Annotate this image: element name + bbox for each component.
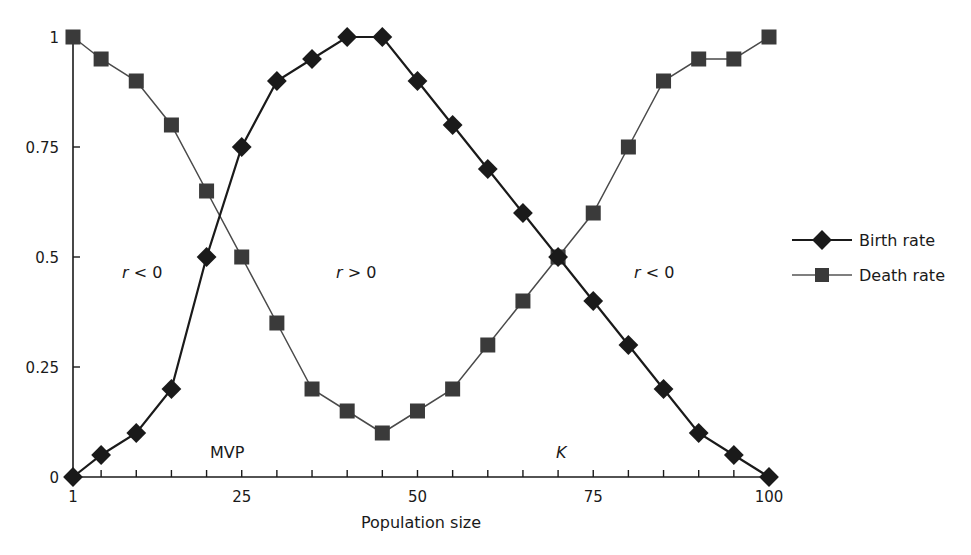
square-marker-icon [691, 52, 706, 67]
square-marker-icon [726, 52, 741, 67]
square-marker-icon [445, 382, 460, 397]
x-tick-label: 75 [584, 488, 603, 506]
k-label: K [556, 443, 568, 462]
square-marker-icon [129, 74, 144, 89]
square-marker-icon [199, 184, 214, 199]
series-death-rate [66, 30, 777, 441]
y-tick-label: 0 [49, 469, 59, 487]
diamond-marker-icon [759, 467, 779, 487]
square-marker-icon [515, 294, 530, 309]
diamond-marker-icon [197, 247, 217, 267]
diamond-marker-icon [232, 137, 252, 157]
y-tick-label: 0.25 [26, 359, 59, 377]
square-marker-icon [375, 426, 390, 441]
square-marker-icon [94, 52, 109, 67]
x-tick-label: 25 [232, 488, 251, 506]
legend-item-death-rate: Death rate [792, 266, 945, 285]
legend-label-birth-rate: Birth rate [859, 231, 935, 250]
square-marker-icon [269, 316, 284, 331]
x-tick-label: 50 [408, 488, 427, 506]
square-marker-icon [340, 404, 355, 419]
region-label-middle: r > 0 [336, 263, 376, 282]
diamond-marker-icon [267, 71, 287, 91]
diamond-marker-icon [63, 467, 83, 487]
square-marker-icon [621, 140, 636, 155]
diamond-marker-icon [372, 27, 392, 47]
square-marker-icon [656, 74, 671, 89]
y-tick-label: 0.5 [35, 249, 59, 267]
x-tick-label: 1 [68, 488, 78, 506]
x-tick-label: 100 [755, 488, 784, 506]
diamond-marker-icon [812, 230, 832, 250]
square-marker-icon [586, 206, 601, 221]
x-axis-title: Population size [361, 513, 481, 532]
square-marker-icon [164, 118, 179, 133]
square-marker-icon [762, 30, 777, 45]
legend-item-birth-rate: Birth rate [792, 230, 935, 250]
mvp-label: MVP [210, 443, 245, 462]
square-marker-icon [480, 338, 495, 353]
region-label-left: r < 0 [122, 263, 162, 282]
diamond-marker-icon [337, 27, 357, 47]
y-tick-label: 1 [49, 29, 59, 47]
region-label-right: r < 0 [634, 263, 674, 282]
square-marker-icon [305, 382, 320, 397]
square-marker-icon [410, 404, 425, 419]
square-marker-icon [66, 30, 81, 45]
legend-label-death-rate: Death rate [859, 266, 945, 285]
square-marker-icon [234, 250, 249, 265]
square-marker-icon [815, 268, 829, 282]
diamond-marker-icon [724, 445, 744, 465]
legend: Birth rate Death rate [792, 230, 945, 285]
series-layer [63, 27, 779, 487]
y-tick-label: 0.75 [26, 139, 59, 157]
diamond-marker-icon [91, 445, 111, 465]
diamond-marker-icon [302, 49, 322, 69]
series-line [73, 37, 769, 433]
birth-death-rate-chart: 00.250.50.7511255075100 r < 0 r > 0 r < … [0, 0, 971, 555]
